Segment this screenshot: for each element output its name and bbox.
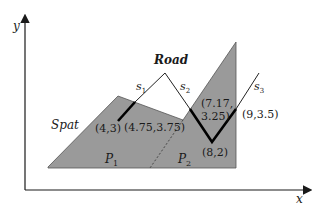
segment-s2-label: s2 bbox=[180, 80, 190, 95]
y-axis-label: y bbox=[12, 19, 20, 33]
x-axis-label: x bbox=[296, 192, 303, 206]
road-label: Road bbox=[153, 53, 189, 67]
segment-s1-label: s1 bbox=[136, 80, 146, 95]
spatial-label: Spat bbox=[51, 118, 79, 132]
segment-s3-label: s3 bbox=[254, 80, 264, 95]
point-label-7.17-3.25-line1: (7.17, bbox=[201, 97, 233, 110]
point-label-9-3.5: (9,3.5) bbox=[242, 108, 279, 121]
point-label-4-3: (4,3) bbox=[95, 122, 121, 135]
point-label-7.17-3.25-line2: 3.25) bbox=[201, 110, 230, 123]
spatial-road-diagram: y x Spat P1 P2 Road s1 s2 s3 (4,3) (4.75… bbox=[0, 0, 330, 213]
point-label-8-2: (8,2) bbox=[202, 146, 228, 159]
point-label-4.75-3.75: (4.75,3.75) bbox=[124, 121, 185, 134]
